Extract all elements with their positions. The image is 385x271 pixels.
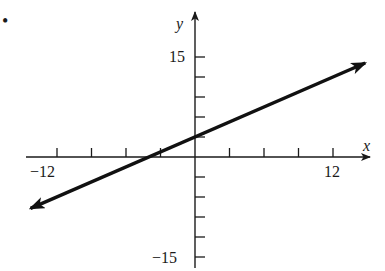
axes xyxy=(26,12,370,268)
x-max-tick-label: 12 xyxy=(324,163,340,180)
y-max-tick-label: 15 xyxy=(169,48,185,65)
problem-bullet: • xyxy=(2,11,8,31)
line-series xyxy=(31,63,366,208)
chart: • y x 15 −15 −12 12 xyxy=(0,0,385,271)
y-axis-label: y xyxy=(174,15,184,33)
x-min-tick-label: −12 xyxy=(30,163,55,180)
y-min-tick-label: −15 xyxy=(152,249,177,266)
data-series xyxy=(31,63,366,208)
x-axis-label: x xyxy=(362,137,370,154)
